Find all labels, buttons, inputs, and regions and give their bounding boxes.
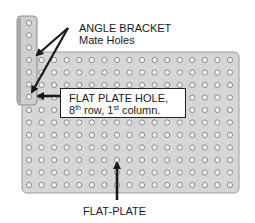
plate-hole (139, 57, 144, 62)
angle-bracket (17, 16, 37, 105)
plate-hole (102, 170, 107, 175)
plate-hole (89, 82, 94, 87)
plate-hole (177, 170, 182, 175)
plate-hole (89, 157, 94, 162)
plate-hole (127, 182, 132, 187)
plate-hole (52, 70, 57, 75)
plate-hole (202, 70, 207, 75)
plate-hole (26, 120, 31, 125)
plate-hole (190, 120, 195, 125)
plate-hole (89, 170, 94, 175)
plate-hole (227, 70, 232, 75)
plate-hole (89, 120, 94, 125)
plate-hole (152, 170, 157, 175)
bracket-hole (26, 94, 31, 99)
plate-hole (102, 132, 107, 137)
plate-hole (102, 57, 107, 62)
plate-hole (190, 145, 195, 150)
bracket-hole (26, 57, 31, 62)
plate-hole (215, 132, 220, 137)
plate-hole (39, 107, 44, 112)
plate-hole (227, 57, 232, 62)
plate-hole (215, 170, 220, 175)
plate-hole (102, 82, 107, 87)
plate-hole (227, 170, 232, 175)
plate-hole (64, 157, 69, 162)
bracket-hole (26, 45, 31, 50)
plate-hole (77, 70, 82, 75)
plate-hole (165, 182, 170, 187)
plate-hole (177, 145, 182, 150)
plate-hole (52, 182, 57, 187)
plate-hole (202, 145, 207, 150)
plate-hole (77, 82, 82, 87)
plate-hole (227, 82, 232, 87)
bracket-hole (26, 20, 31, 25)
plate-hole (215, 182, 220, 187)
plate-hole (39, 157, 44, 162)
plate-hole (52, 170, 57, 175)
plate-hole (177, 132, 182, 137)
plate-hole (64, 182, 69, 187)
plate-hole (102, 145, 107, 150)
plate-hole (152, 120, 157, 125)
plate-hole (227, 120, 232, 125)
plate-hole (102, 182, 107, 187)
plate-hole (64, 145, 69, 150)
plate-hole (190, 57, 195, 62)
plate-hole (77, 170, 82, 175)
plate-hole (190, 95, 195, 100)
row-text: row, (81, 104, 107, 116)
plate-hole (152, 132, 157, 137)
plate-hole (26, 132, 31, 137)
plate-hole (177, 120, 182, 125)
callout-title: FLAT PLATE HOLE, (69, 92, 185, 104)
plate-hole (52, 107, 57, 112)
plate-hole (227, 145, 232, 150)
plate-hole (139, 70, 144, 75)
plate-hole (139, 182, 144, 187)
flat-plate-label: FLAT-PLATE (83, 205, 146, 217)
plate-hole (77, 120, 82, 125)
plate-hole (190, 70, 195, 75)
plate-hole (52, 120, 57, 125)
plate-hole (139, 120, 144, 125)
plate-hole (39, 182, 44, 187)
plate-hole (127, 145, 132, 150)
plate-hole (177, 57, 182, 62)
plate-hole (177, 82, 182, 87)
plate-hole (102, 120, 107, 125)
plate-hole (114, 82, 119, 87)
plate-hole (114, 157, 119, 162)
angle-bracket-subtitle: Mate Holes (79, 34, 171, 46)
plate-hole (227, 95, 232, 100)
plate-hole (215, 120, 220, 125)
plate-hole (177, 70, 182, 75)
plate-hole (52, 157, 57, 162)
plate-hole (215, 70, 220, 75)
plate-hole (152, 70, 157, 75)
plate-hole (64, 132, 69, 137)
plate-hole (89, 132, 94, 137)
plate-hole (190, 107, 195, 112)
plate-hole (26, 107, 31, 112)
plate-hole (202, 95, 207, 100)
plate-hole (39, 170, 44, 175)
plate-hole (202, 132, 207, 137)
angle-bracket-flange (17, 18, 21, 103)
plate-hole (102, 157, 107, 162)
plate-hole (177, 157, 182, 162)
plate-hole (64, 82, 69, 87)
flat-plate-hole-callout: FLAT PLATE HOLE, 8th row, 1st column. (60, 88, 186, 118)
plate-hole (215, 157, 220, 162)
plate-hole (127, 132, 132, 137)
plate-hole (77, 57, 82, 62)
plate-hole (152, 157, 157, 162)
plate-hole (114, 132, 119, 137)
plate-hole (26, 170, 31, 175)
plate-hole (165, 57, 170, 62)
plate-hole (215, 82, 220, 87)
plate-hole (77, 132, 82, 137)
plate-hole (127, 120, 132, 125)
plate-hole (39, 120, 44, 125)
